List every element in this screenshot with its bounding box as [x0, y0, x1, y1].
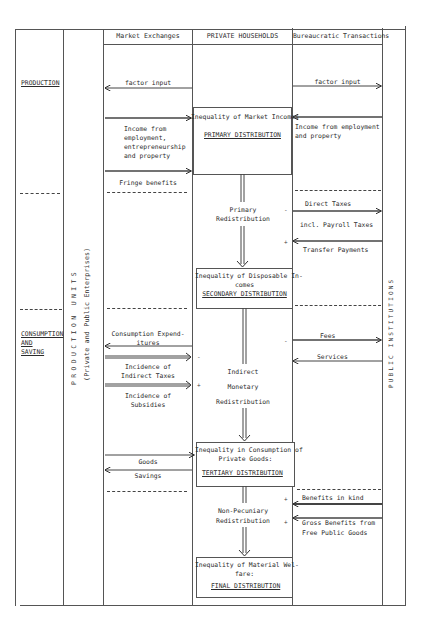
flow-arrows	[0, 0, 441, 620]
